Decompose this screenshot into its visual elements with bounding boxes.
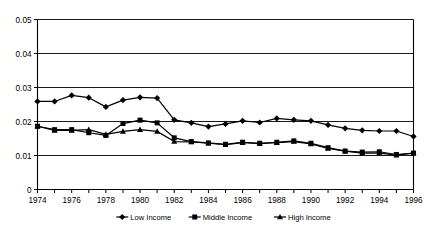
x-tick-label: 1994	[370, 196, 389, 205]
legend-label: Middle Income	[203, 213, 252, 222]
chart-legend: Low IncomeMiddle IncomeHigh Income	[116, 213, 330, 222]
data-point	[138, 118, 143, 123]
legend-label: Low Income	[130, 213, 171, 222]
y-tick-label: 0.05	[16, 16, 32, 25]
x-tick-label: 1982	[165, 196, 184, 205]
x-tick-label: 1976	[63, 196, 82, 205]
chart-container: 00.010.020.030.040.05 197419761978198019…	[0, 0, 428, 237]
y-tick-label: 0	[27, 186, 32, 195]
legend-label: High Income	[288, 213, 331, 222]
x-tick-label: 1978	[97, 196, 116, 205]
y-tick-label: 0.04	[16, 50, 32, 59]
x-tick-label: 1990	[302, 196, 321, 205]
y-tick-label: 0.02	[16, 118, 32, 127]
x-tick-label: 1988	[268, 196, 287, 205]
y-tick-label: 0.01	[16, 152, 32, 161]
data-point	[155, 120, 160, 125]
x-tick-label: 1984	[199, 196, 218, 205]
x-tick-label: 1980	[131, 196, 150, 205]
x-tick-label: 1974	[28, 196, 47, 205]
x-tick-label: 1986	[233, 196, 252, 205]
legend-swatch-marker	[192, 215, 197, 220]
data-point	[120, 121, 125, 126]
x-tick-label: 1996	[404, 196, 423, 205]
line-chart: 00.010.020.030.040.05 197419761978198019…	[0, 0, 428, 237]
x-tick-label: 1992	[336, 196, 355, 205]
y-tick-label: 0.03	[16, 84, 32, 93]
